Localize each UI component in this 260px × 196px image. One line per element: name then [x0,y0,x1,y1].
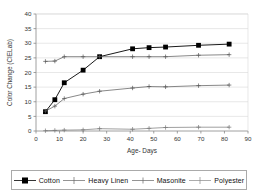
legend-label-polyester: Polyester [214,177,244,184]
svg-text:60: 60 [174,135,181,142]
plot-area: 0510152025303540 0102030405060708090 Col… [0,0,260,168]
svg-text:80: 80 [221,135,228,142]
svg-text:40: 40 [25,10,32,17]
masonite-marker-icon [132,176,154,185]
svg-text:30: 30 [25,39,32,46]
svg-text:10: 10 [25,98,32,105]
svg-text:70: 70 [197,135,204,142]
line-chart: 0510152025303540 0102030405060708090 Col… [0,0,260,168]
legend-label-cotton: Cotton [39,177,60,184]
y-axis-ticks: 0510152025303540 [25,10,36,134]
legend-item-heavy-linen[interactable]: Heavy Linen [63,176,128,185]
legend-item-polyester[interactable]: Polyester [189,176,244,185]
legend-label-heavy-linen: Heavy Linen [88,177,128,184]
svg-text:30: 30 [103,135,110,142]
svg-text:35: 35 [25,25,32,32]
chart-legend: Cotton Heavy Linen Masonite Polyester [11,170,247,190]
y-axis-title: Color Change (CIELab) [6,39,14,106]
svg-text:5: 5 [28,113,32,120]
x-axis-ticks: 0102030405060708090 [34,131,252,142]
legend-item-masonite[interactable]: Masonite [132,176,186,185]
svg-text:20: 20 [80,135,87,142]
svg-text:90: 90 [245,135,252,142]
svg-text:25: 25 [25,54,32,61]
gridlines [36,14,248,116]
svg-text:0: 0 [34,135,38,142]
legend-label-masonite: Masonite [157,177,186,184]
svg-text:0: 0 [28,127,32,134]
svg-text:40: 40 [127,135,134,142]
svg-text:15: 15 [25,83,32,90]
svg-text:10: 10 [56,135,63,142]
x-axis-title: Age- Days [127,147,157,155]
svg-text:50: 50 [150,135,157,142]
cotton-marker-icon [14,176,36,185]
svg-text:20: 20 [25,69,32,76]
polyester-marker-icon [189,176,211,185]
heavy-linen-marker-icon [63,176,85,185]
legend-item-cotton[interactable]: Cotton [14,176,60,185]
figure: 0510152025303540 0102030405060708090 Col… [0,0,260,196]
